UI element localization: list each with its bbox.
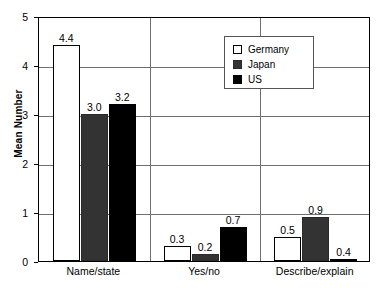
legend-swatch-japan: [233, 60, 242, 69]
bar-germany-3: [274, 237, 301, 262]
x-axis-tick-labels: Name/stateYes/noDescribe/explain: [38, 265, 370, 285]
bar-us-3: [330, 259, 357, 261]
bar-value-label: 0.7: [226, 214, 241, 226]
bar-us-1: [109, 104, 136, 261]
gridline: [39, 67, 369, 68]
x-tick-label: Describe/explain: [276, 265, 354, 277]
legend-label: US: [248, 74, 262, 85]
legend-label: Germany: [248, 44, 289, 55]
legend-label: Japan: [248, 59, 275, 70]
x-tick-label: Yes/no: [188, 265, 220, 277]
bar-value-label: 0.3: [170, 233, 185, 245]
bar-value-label: 3.2: [115, 91, 130, 103]
bar-japan-1: [81, 114, 108, 261]
y-axis-tick-marks: [0, 17, 38, 262]
bar-value-label: 3.0: [87, 101, 102, 113]
group-separator: [150, 18, 151, 261]
bar-value-label: 0.5: [280, 224, 295, 236]
plot-area: 4.43.03.20.30.20.70.50.90.4: [38, 17, 370, 262]
bar-value-label: 4.4: [59, 32, 74, 44]
bar-us-2: [220, 227, 247, 261]
x-tick-label: Name/state: [66, 265, 120, 277]
bar-japan-2: [192, 254, 219, 261]
bar-germany-2: [164, 246, 191, 261]
chart-legend: GermanyJapanUS: [224, 36, 314, 89]
legend-swatch-germany: [233, 45, 242, 54]
legend-swatch-us: [233, 75, 242, 84]
bar-chart-figure: Mean Number 012345 4.43.03.20.30.20.70.5…: [0, 0, 384, 292]
y-tick-mark: [34, 262, 38, 263]
bar-japan-3: [302, 217, 329, 261]
bar-value-label: 0.4: [336, 246, 351, 258]
bar-value-label: 0.9: [308, 204, 323, 216]
bar-value-label: 0.2: [198, 241, 213, 253]
bar-germany-1: [53, 45, 80, 261]
legend-item-japan: Japan: [233, 57, 313, 72]
legend-item-us: US: [233, 72, 313, 87]
legend-item-germany: Germany: [233, 42, 313, 57]
